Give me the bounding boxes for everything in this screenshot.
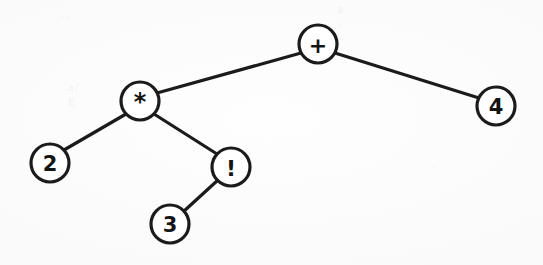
- edge-times-to-two: [64, 114, 126, 150]
- node-times-label: *: [134, 88, 147, 116]
- node-plus[interactable]: +: [299, 25, 337, 63]
- node-two[interactable]: 2: [31, 144, 69, 182]
- node-two-label: 2: [43, 152, 58, 176]
- node-plus-label: +: [309, 33, 327, 58]
- expression-tree-graphic: +*42!3: [0, 0, 543, 265]
- edge-layer: [64, 53, 479, 212]
- edge-times-to-factorial: [154, 114, 217, 154]
- node-four-label: 4: [489, 95, 504, 119]
- edge-plus-to-four: [335, 53, 479, 98]
- node-three-label: 3: [163, 213, 178, 237]
- node-layer: +*42!3: [31, 25, 515, 243]
- node-factorial-label: !: [226, 156, 236, 181]
- node-times[interactable]: *: [121, 82, 159, 120]
- diagram-canvas: ··a/ Ea · ·· ···· +*42!3: [0, 0, 543, 265]
- node-factorial[interactable]: !: [212, 148, 250, 186]
- edge-plus-to-times: [157, 53, 301, 93]
- edge-factorial-to-three: [183, 180, 218, 212]
- node-four[interactable]: 4: [477, 87, 515, 125]
- node-three[interactable]: 3: [151, 205, 189, 243]
